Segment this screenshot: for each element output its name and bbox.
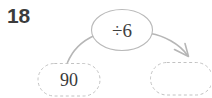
input-value: 90 [60, 70, 78, 90]
function-machine-diagram: ÷6 90 [0, 0, 211, 98]
output-answer-bubble[interactable] [151, 63, 212, 96]
worksheet-problem-canvas: 18 ÷6 90 [0, 0, 211, 98]
operation-label: ÷6 [112, 20, 132, 41]
arrow-input-to-machine [68, 36, 95, 63]
arrow-machine-to-output [151, 34, 188, 56]
